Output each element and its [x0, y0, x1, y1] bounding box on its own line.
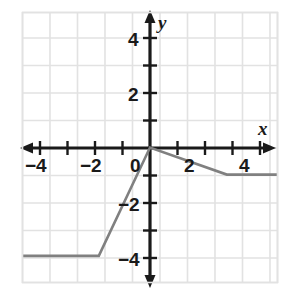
origin-label: 0	[130, 156, 141, 175]
x-tick-label-pos2: 2	[184, 156, 195, 175]
y-tick-label-pos2: 2	[128, 85, 139, 104]
y-axis-label: y	[158, 13, 166, 32]
graph-figure: −4 −2 0 2 4 4 2 −2 −4 x y	[0, 0, 293, 296]
x-axis-label: x	[258, 119, 268, 138]
x-tick-label-pos4: 4	[239, 156, 250, 175]
y-tick-label-neg4: −4	[118, 250, 140, 269]
y-tick-label-neg2: −2	[118, 195, 140, 214]
y-tick-label-pos4: 4	[128, 30, 139, 49]
coordinate-plane	[0, 0, 293, 296]
x-tick-label-neg2: −2	[80, 156, 102, 175]
x-tick-label-neg4: −4	[25, 156, 47, 175]
